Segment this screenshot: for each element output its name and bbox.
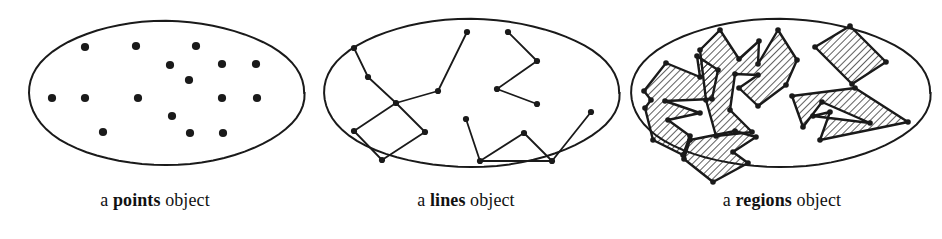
polyline-vertex-3-0: [463, 116, 469, 122]
regions-object-diagram: [622, 0, 942, 190]
region-vertex-1-4: [755, 61, 761, 67]
region-vertex-0-1: [697, 74, 703, 80]
point-marker-15: [219, 129, 227, 137]
panel-regions-object: a regions object: [622, 0, 942, 239]
point-marker-5: [252, 60, 260, 68]
point-marker-11: [253, 94, 261, 102]
region-vertex-1-1: [717, 27, 723, 33]
region-vertex-1-5: [775, 27, 781, 33]
region-polygon-1: [700, 30, 797, 136]
region-vertex-4-1: [852, 85, 858, 91]
region-vertex-3-2: [883, 59, 889, 65]
caption-keyword: lines: [430, 190, 466, 210]
region-vertex-4-3: [817, 137, 823, 143]
region-vertex-1-3: [756, 38, 762, 44]
polyline-vertex-0-3: [435, 88, 441, 94]
region-vertex-1-15: [703, 97, 709, 103]
polyline-vertex-0-4: [464, 29, 470, 35]
polyline-vertex-3-2: [521, 130, 527, 136]
region-vertex-4-7: [819, 99, 825, 105]
region-vertex-1-9: [736, 85, 742, 91]
region-vertex-2-1: [732, 128, 738, 134]
polyline-vertex-0-1: [365, 74, 371, 80]
panel-points-object: a points object: [0, 0, 310, 239]
region-vertex-4-8: [800, 124, 806, 130]
lines-object-diagram: [311, 0, 621, 185]
point-marker-4: [218, 60, 226, 68]
point-marker-0: [81, 43, 89, 51]
caption-suffix: object: [466, 190, 515, 210]
region-vertex-1-8: [755, 103, 761, 109]
point-marker-1: [132, 42, 140, 50]
polyline-2: [497, 32, 537, 104]
region-vertex-3-1: [847, 23, 853, 29]
region-vertex-3-0: [812, 44, 818, 50]
region-vertex-2-3: [730, 149, 736, 155]
region-vertex-2-6: [681, 156, 687, 162]
polyline-vertex-1-0: [351, 128, 357, 134]
polyline-vertex-1-2: [422, 129, 428, 135]
polyline-vertex-3-1: [477, 158, 483, 164]
region-vertex-2-4: [745, 160, 751, 166]
region-vertex-2-5: [710, 179, 716, 185]
caption-suffix: object: [161, 190, 210, 210]
polyline-vertex-2-2: [494, 86, 500, 92]
figure-spatial-object-types: a points object a lines object a regions…: [0, 0, 942, 239]
polyline-vertex-1-3: [379, 157, 385, 163]
caption-keyword: regions: [736, 190, 792, 210]
region-vertex-1-7: [783, 82, 789, 88]
caption-lines-object: a lines object: [311, 190, 621, 211]
polyline-1: [354, 103, 425, 160]
polyline-3: [466, 112, 591, 161]
region-vertex-0-11: [642, 105, 648, 111]
points-object-diagram: [0, 0, 310, 185]
point-marker-6: [185, 76, 193, 84]
region-vertex-0-4: [709, 96, 715, 102]
region-vertex-1-2: [736, 56, 742, 62]
point-marker-14: [186, 129, 194, 137]
region-vertex-1-6: [794, 57, 800, 63]
region-vertex-0-12: [648, 97, 654, 103]
point-marker-10: [218, 94, 226, 102]
region-vertex-4-2: [905, 119, 911, 125]
region-vertex-0-3: [715, 67, 721, 73]
polyline-0: [354, 32, 467, 103]
point-marker-3: [166, 61, 174, 69]
polyline-vertex-0-2: [393, 100, 399, 106]
point-marker-8: [81, 94, 89, 102]
region-vertex-0-13: [641, 88, 647, 94]
polyline-vertex-3-3: [549, 158, 555, 164]
region-vertex-1-14: [713, 133, 719, 139]
region-vertex-2-0: [687, 137, 693, 143]
region-vertex-0-5: [662, 98, 668, 104]
polyline-vertex-2-1: [534, 58, 540, 64]
region-polygon-2: [684, 131, 756, 182]
region-vertex-0-10: [650, 137, 656, 143]
region-vertex-0-2: [694, 53, 700, 59]
region-vertex-1-0: [697, 47, 703, 53]
region-polygon-3: [815, 26, 886, 84]
caption-keyword: points: [113, 190, 161, 210]
region-vertex-0-0: [663, 60, 669, 66]
region-vertex-0-7: [665, 117, 671, 123]
region-vertex-4-4: [827, 109, 833, 115]
region-vertex-4-0: [789, 93, 795, 99]
panel-lines-object: a lines object: [311, 0, 621, 239]
point-marker-13: [99, 128, 107, 136]
point-marker-12: [168, 112, 176, 120]
polyline-vertex-3-4: [588, 109, 594, 115]
region-vertex-1-10: [755, 72, 761, 78]
caption-points-object: a points object: [0, 190, 310, 211]
region-vertex-1-12: [727, 107, 733, 113]
point-marker-7: [48, 94, 56, 102]
region-polygon-4: [792, 88, 908, 140]
caption-prefix: a: [723, 190, 736, 210]
points-ellipse-boundary: [29, 21, 305, 165]
polyline-vertex-2-3: [534, 101, 540, 107]
polyline-vertex-2-0: [505, 29, 511, 35]
region-vertex-0-6: [697, 110, 703, 116]
region-vertex-4-5: [810, 113, 816, 119]
caption-prefix: a: [100, 190, 113, 210]
point-marker-2: [192, 42, 200, 50]
caption-suffix: object: [792, 190, 841, 210]
